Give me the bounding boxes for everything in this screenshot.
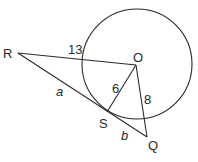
length-label-ro: 13	[68, 42, 82, 57]
length-label-rs: a	[56, 84, 63, 99]
point-label-o: O	[133, 50, 143, 65]
point-label-q: Q	[148, 138, 158, 153]
point-label-s: S	[99, 116, 108, 131]
point-label-r: R	[3, 46, 12, 61]
geometry-diagram: R O S Q 13 6 8 a b	[0, 0, 198, 162]
length-label-oq: 8	[144, 92, 151, 107]
length-label-os: 6	[112, 81, 119, 96]
length-label-sq: b	[121, 128, 128, 143]
